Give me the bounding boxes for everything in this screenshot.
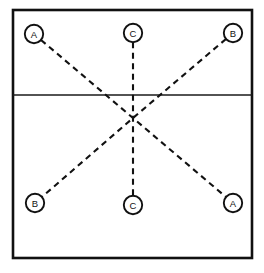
node-bottom-right-label: A xyxy=(230,198,237,209)
node-bottom-center: C xyxy=(124,196,142,214)
node-bottom-center-label: C xyxy=(130,200,137,211)
node-top-left: A xyxy=(25,25,43,43)
node-top-right-label: B xyxy=(230,28,236,39)
diagram-svg: ACBBCA xyxy=(0,0,264,273)
node-top-left-label: A xyxy=(31,29,38,40)
diagram-canvas: ACBBCA xyxy=(0,0,264,273)
node-top-center-label: C xyxy=(130,28,137,39)
node-top-center: C xyxy=(124,24,142,42)
node-bottom-left: B xyxy=(26,194,44,212)
node-top-right: B xyxy=(224,24,242,42)
node-bottom-right: A xyxy=(224,194,242,212)
node-bottom-left-label: B xyxy=(32,198,38,209)
